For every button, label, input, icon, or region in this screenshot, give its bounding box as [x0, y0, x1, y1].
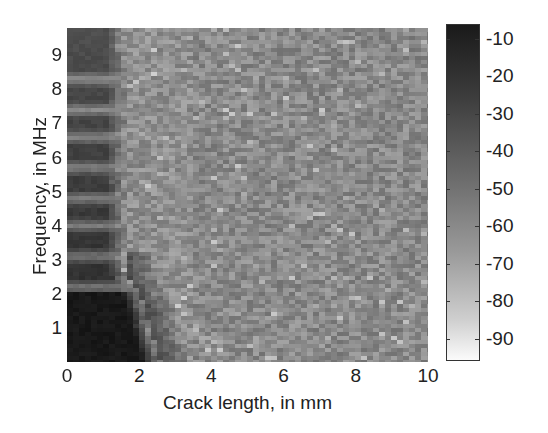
colorbar-tick-label: -20 — [486, 66, 513, 85]
heatmap-plot-area — [67, 28, 428, 362]
colorbar-tick-mark — [446, 264, 450, 265]
colorbar-tick-label: -60 — [486, 216, 513, 235]
colorbar-tick-mark — [475, 264, 479, 265]
x-tick-label: 6 — [264, 366, 304, 385]
y-tick-label: 1 — [46, 318, 62, 337]
y-tick-label: 9 — [46, 45, 62, 64]
colorbar-tick-label: -80 — [486, 291, 513, 310]
colorbar-tick-mark — [475, 339, 479, 340]
x-tick-label: 8 — [336, 366, 376, 385]
colorbar-tick-label: -50 — [486, 179, 513, 198]
colorbar-tick-label: -90 — [486, 329, 513, 348]
x-tick-label: 2 — [119, 366, 159, 385]
colorbar-tick-mark — [446, 189, 450, 190]
colorbar-tick-mark — [475, 151, 479, 152]
colorbar-tick-mark — [475, 39, 479, 40]
colorbar-tick-label: -70 — [486, 254, 513, 273]
colorbar — [446, 24, 480, 361]
x-axis-label: Crack length, in mm — [67, 392, 428, 414]
colorbar-tick-mark — [446, 39, 450, 40]
colorbar-tick-mark — [446, 301, 450, 302]
colorbar-tick-mark — [475, 189, 479, 190]
colorbar-tick-label: -30 — [486, 104, 513, 123]
colorbar-tick-label: -10 — [486, 29, 513, 48]
colorbar-tick-mark — [446, 226, 450, 227]
colorbar-tick-mark — [475, 114, 479, 115]
colorbar-tick-mark — [475, 301, 479, 302]
y-axis-label: Frequency, in MHz — [29, 96, 51, 296]
colorbar-tick-mark — [475, 76, 479, 77]
x-tick-label: 4 — [191, 366, 231, 385]
colorbar-tick-label: -40 — [486, 141, 513, 160]
x-tick-label: 10 — [408, 366, 448, 385]
colorbar-tick-mark — [446, 151, 450, 152]
x-tick-label: 0 — [47, 366, 87, 385]
colorbar-tick-mark — [446, 76, 450, 77]
colorbar-tick-mark — [446, 339, 450, 340]
colorbar-tick-mark — [446, 114, 450, 115]
colorbar-tick-mark — [475, 226, 479, 227]
